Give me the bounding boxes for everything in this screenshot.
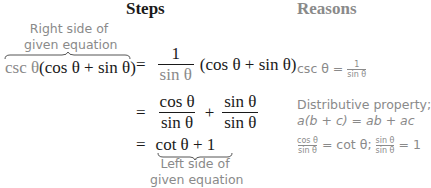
steps-header: Steps <box>126 0 165 19</box>
top-annotation: Right side of given equation <box>24 21 114 53</box>
step-3: =cot θ + 1 <box>136 135 215 155</box>
fraction: 1 sin θ <box>158 44 194 85</box>
step-1-lhs: csc θ(cos θ + sin θ) <box>5 58 136 78</box>
step-1-rhs: = 1 sin θ (cos θ + sin θ) <box>136 44 297 85</box>
bottom-annotation: Left side of given equation <box>150 156 240 188</box>
reason-2: Distributive property; a(b + c) = ab + a… <box>297 97 431 129</box>
reason-3: cos θsin θ = cot θ; sin θsin θ = 1 <box>297 136 421 155</box>
reasons-header: Reasons <box>297 0 357 19</box>
reason-1: csc θ = 1sin θ <box>297 60 366 79</box>
step-2: = cos θsin θ + sin θsin θ <box>136 92 258 133</box>
